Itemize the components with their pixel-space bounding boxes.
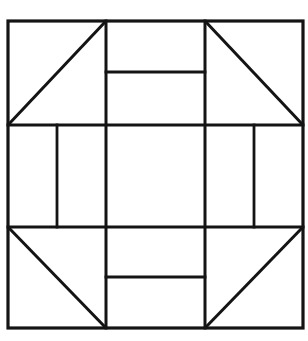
quilt-block-diagram (0, 0, 308, 341)
figure-root (0, 0, 308, 341)
canvas-background (0, 0, 308, 341)
